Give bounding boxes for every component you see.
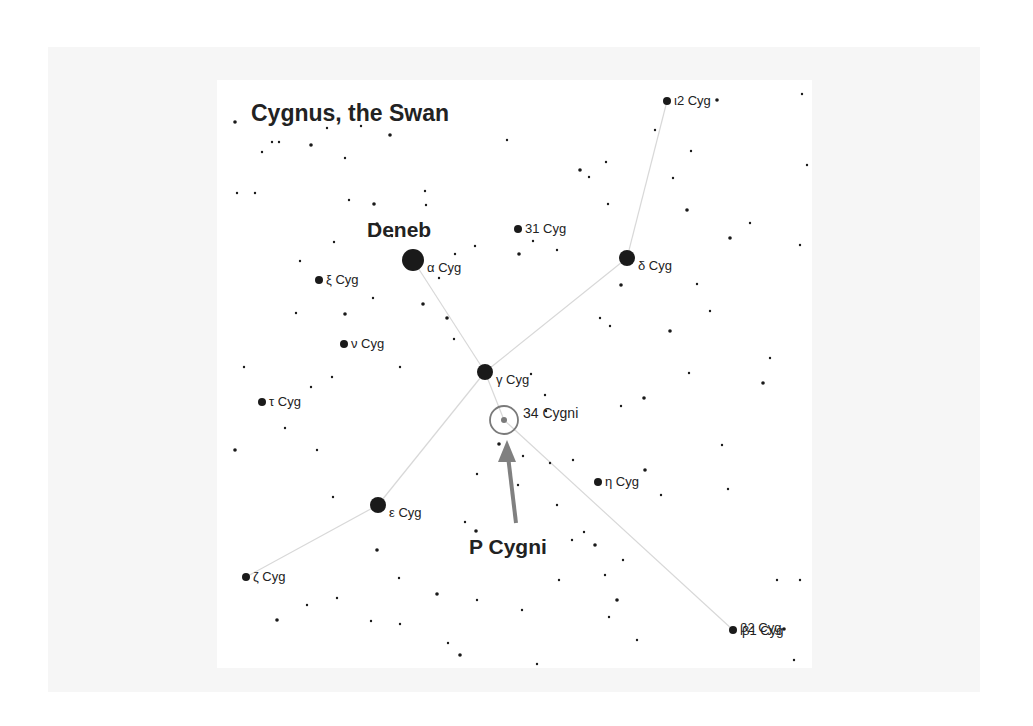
- star-label-delta: δ Cyg: [638, 258, 672, 273]
- star-c31: [514, 225, 522, 233]
- constellation-line: [246, 505, 378, 577]
- field-star: [604, 574, 606, 576]
- star-alpha: [402, 249, 424, 271]
- star-tau: [258, 398, 266, 406]
- field-star: [776, 579, 778, 581]
- field-star: [660, 494, 662, 496]
- deneb-label: Deneb: [367, 218, 431, 242]
- star-label-tau: τ Cyg: [269, 394, 301, 409]
- field-star: [654, 129, 656, 131]
- field-star: [799, 579, 801, 581]
- field-star: [556, 249, 558, 251]
- field-star: [474, 529, 478, 533]
- field-star: [696, 283, 698, 285]
- field-star: [370, 620, 372, 622]
- field-star: [236, 192, 238, 194]
- field-star: [536, 663, 538, 665]
- star-beta: [729, 626, 737, 634]
- field-star: [556, 504, 558, 506]
- star-eta: [594, 478, 602, 486]
- field-star: [668, 329, 672, 333]
- field-star: [544, 394, 546, 396]
- field-star: [801, 93, 803, 95]
- field-star: [458, 653, 462, 657]
- field-star: [399, 623, 401, 625]
- field-star: [583, 531, 585, 533]
- field-star: [254, 192, 256, 194]
- field-star: [558, 579, 560, 581]
- field-star: [344, 157, 346, 159]
- field-star: [521, 609, 523, 611]
- field-star: [709, 310, 711, 312]
- constellation-line: [504, 420, 733, 630]
- field-star: [476, 473, 478, 475]
- field-star: [284, 427, 286, 429]
- field-star: [605, 161, 607, 163]
- star-label-zeta: ζ Cyg: [253, 569, 285, 584]
- field-star: [727, 488, 729, 490]
- star-nu: [340, 340, 348, 348]
- field-star: [331, 376, 333, 378]
- field-star: [348, 199, 350, 201]
- field-star: [549, 462, 551, 464]
- field-star: [769, 357, 771, 359]
- field-star: [309, 143, 313, 147]
- star-label-c31: 31 Cyg: [525, 221, 566, 236]
- constellation-line: [413, 260, 485, 372]
- field-star: [424, 190, 426, 192]
- p-cygni-label: P Cygni: [469, 535, 547, 559]
- target-star: [501, 417, 507, 423]
- star-iota2: [663, 97, 671, 105]
- field-star: [609, 325, 611, 327]
- field-star: [688, 372, 690, 374]
- field-star: [299, 260, 301, 262]
- field-star: [474, 245, 476, 247]
- field-star: [530, 373, 532, 375]
- field-star: [593, 543, 597, 547]
- field-star: [506, 139, 508, 141]
- field-star: [454, 253, 456, 255]
- field-star: [799, 244, 801, 246]
- star-label-nu: ν Cyg: [351, 336, 384, 351]
- field-star: [275, 618, 279, 622]
- field-star: [464, 521, 466, 523]
- field-star: [761, 381, 765, 385]
- star-delta: [619, 250, 635, 266]
- field-star: [435, 592, 439, 596]
- field-star: [607, 203, 609, 205]
- field-star: [278, 141, 280, 143]
- field-star: [295, 312, 297, 314]
- field-star: [578, 168, 582, 172]
- field-star: [421, 302, 425, 306]
- pointer-arrow-shaft: [508, 456, 516, 523]
- field-star: [620, 405, 622, 407]
- field-star: [261, 151, 263, 153]
- pointer-arrow-head-icon: [498, 440, 516, 462]
- field-star: [619, 283, 623, 287]
- field-star: [333, 241, 335, 243]
- star-label-alpha: α Cyg: [427, 260, 461, 275]
- field-star: [476, 599, 478, 601]
- field-star: [522, 455, 524, 457]
- field-star: [453, 338, 455, 340]
- field-star: [572, 459, 574, 461]
- field-star: [672, 177, 674, 179]
- field-star: [316, 449, 318, 451]
- star-label-eta: η Cyg: [605, 474, 639, 489]
- constellation-line: [485, 258, 627, 372]
- field-star: [690, 150, 692, 152]
- field-star: [721, 444, 723, 446]
- field-star: [643, 468, 647, 472]
- field-star: [532, 240, 534, 242]
- field-star: [343, 312, 347, 316]
- field-star: [685, 208, 689, 212]
- field-star: [399, 366, 401, 368]
- field-star: [332, 496, 334, 498]
- field-star: [306, 604, 308, 606]
- field-star: [622, 559, 624, 561]
- field-star: [517, 252, 521, 256]
- constellation-line: [378, 372, 485, 505]
- field-star: [642, 396, 646, 400]
- star-label-gamma: γ Cyg: [496, 372, 529, 387]
- field-star: [336, 597, 338, 599]
